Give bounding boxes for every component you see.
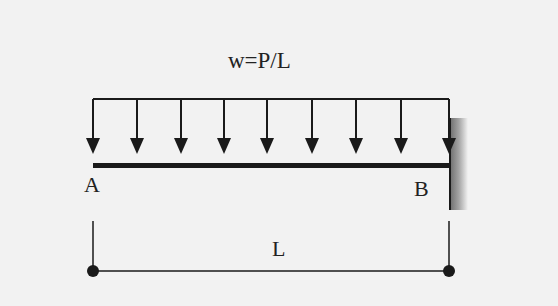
support-a-label: A xyxy=(84,172,100,198)
span-dimension xyxy=(87,221,455,277)
support-b-label: B xyxy=(414,176,429,202)
span-label: L xyxy=(272,236,285,262)
beam xyxy=(93,163,450,168)
load-label: w=P/L xyxy=(228,48,291,74)
distributed-load xyxy=(86,99,456,154)
fixed-wall xyxy=(450,118,468,210)
